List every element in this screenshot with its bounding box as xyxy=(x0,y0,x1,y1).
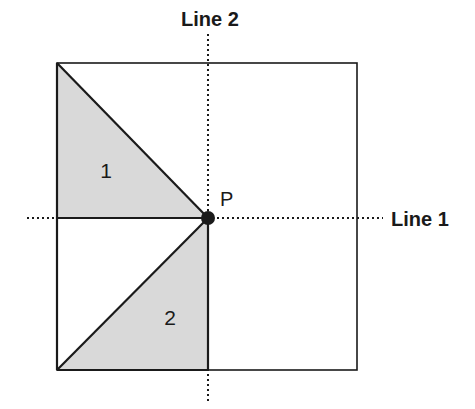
line-2-label: Line 2 xyxy=(181,8,239,30)
geometry-diagram: Line 2 Line 1 P 1 2 xyxy=(0,0,475,409)
point-p-label: P xyxy=(220,188,233,210)
point-p-marker xyxy=(201,211,215,225)
line-1-label: Line 1 xyxy=(391,208,449,230)
region-1-label: 1 xyxy=(100,159,112,182)
region-2-label: 2 xyxy=(164,306,176,329)
